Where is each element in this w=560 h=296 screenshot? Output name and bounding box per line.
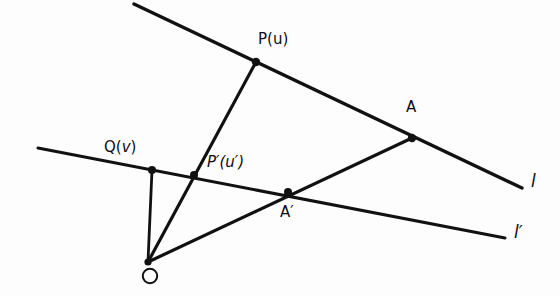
segment-o-to-q bbox=[148, 170, 152, 262]
point-a-prime-marker bbox=[284, 188, 292, 196]
label-point-q: Q(v) bbox=[104, 140, 136, 155]
label-line-l: l bbox=[531, 173, 536, 190]
label-point-a-prime: A′ bbox=[280, 205, 294, 220]
point-q-marker bbox=[148, 166, 156, 174]
label-point-a: A bbox=[406, 100, 416, 115]
line-l-prime bbox=[38, 148, 505, 238]
line-l bbox=[134, 4, 522, 188]
point-o-marker bbox=[144, 258, 151, 265]
point-o-ring bbox=[143, 269, 157, 283]
point-p-prime-marker bbox=[190, 171, 198, 179]
point-p-marker bbox=[252, 58, 260, 66]
label-point-p: P(u) bbox=[258, 32, 288, 47]
point-a-marker bbox=[408, 134, 416, 142]
ray-o-to-a bbox=[148, 138, 412, 262]
label-line-l-prime: l′ bbox=[514, 224, 523, 241]
geometry-figure: P(u) Q(v) P′(u′) A A′ O l l′ bbox=[0, 0, 560, 296]
label-q-parameter: v bbox=[122, 138, 131, 156]
label-point-p-prime: P′(u′) bbox=[207, 155, 244, 170]
